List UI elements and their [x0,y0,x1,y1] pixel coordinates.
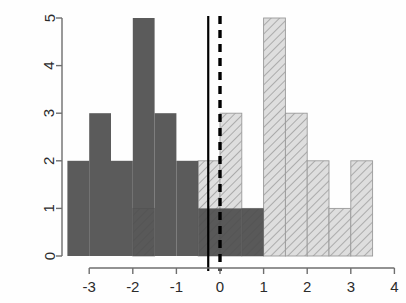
x-axis-tick-labels: -3-2-101234 [83,278,399,295]
y-tick-label: 3 [41,109,58,117]
x-tick-label: 3 [347,278,355,295]
y-tick-label: 4 [41,61,58,69]
y-axis-tick-labels: 012345 [41,14,58,260]
histogram-bar-light [264,18,286,256]
x-axis [89,268,394,274]
x-tick-label: 0 [216,278,224,295]
y-axis [56,18,62,256]
y-tick-label: 5 [41,14,58,22]
histogram-bar-light [285,113,307,256]
histogram-bar-dark [176,161,198,256]
y-tick-label: 2 [41,157,58,165]
histogram-bar-dark [242,208,264,256]
histogram-figure: -3-2-101234 012345 [0,0,406,303]
y-tick-label: 0 [41,252,58,260]
histogram-bar-dark [220,208,242,256]
histogram-bar-light [307,161,329,256]
histogram-bar-dark [67,161,89,256]
x-tick-label: 2 [303,278,311,295]
histogram-plot: -3-2-101234 012345 [0,0,406,303]
x-tick-label: -3 [83,278,96,295]
x-tick-label: 4 [390,278,398,295]
x-tick-label: 1 [259,278,267,295]
histogram-bar-dark [155,113,177,256]
histogram-bar-dark [133,18,155,256]
histogram-bar-light [329,208,351,256]
y-tick-label: 1 [41,204,58,212]
histogram-bar-dark [111,161,133,256]
histogram-bar-dark [89,113,111,256]
x-tick-label: -1 [170,278,183,295]
x-tick-label: -2 [126,278,139,295]
histogram-bar-light [351,161,373,256]
